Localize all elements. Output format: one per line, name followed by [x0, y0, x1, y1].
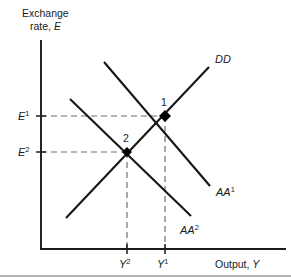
x-tick-label-y1-sup: 1 [164, 257, 168, 266]
x-axis-title-var: Y [252, 258, 260, 270]
axis-lines [41, 41, 285, 249]
y-axis-title-line1: Exchange [22, 7, 69, 19]
curve-label-aa1: AA1 [215, 185, 235, 198]
y-axis-title-line2: rate, E [30, 20, 62, 32]
curve-aa1 [104, 62, 210, 186]
marker-point-1 [159, 110, 171, 122]
economics-diagram-figure: Exchange rate, E Output, Y E1 E2 Y2 Y1 D… [0, 0, 291, 278]
curve-label-aa2-var: AA [179, 224, 195, 236]
curve-label-aa2-sup: 2 [195, 223, 199, 232]
x-tick-label-y2-sup: 2 [126, 257, 130, 266]
y-tick-label-e2-sup: 2 [25, 145, 29, 154]
curve-dd [66, 67, 209, 218]
y-axis-title-var: E [54, 20, 62, 32]
x-axis-title-prefix: Output, [215, 258, 252, 270]
y-tick-label-e1: E1 [18, 109, 30, 122]
point-label-2: 2 [123, 132, 129, 144]
curve-aa2 [70, 99, 191, 216]
dd-aa-diagram-svg: Exchange rate, E Output, Y E1 E2 Y2 Y1 D… [0, 0, 291, 278]
point-label-1: 1 [161, 96, 167, 108]
y-axis-title-prefix: rate, [30, 20, 54, 32]
x-tick-label-y2: Y2 [119, 257, 131, 270]
y-tick-label-e1-sup: 1 [25, 109, 29, 118]
y-tick-label-e2: E2 [18, 145, 30, 158]
x-axis-title: Output, Y [215, 258, 260, 270]
curve-label-aa2: AA2 [179, 223, 199, 236]
curve-label-aa1-var: AA [215, 186, 231, 198]
x-tick-label-y1: Y1 [157, 257, 169, 270]
curve-label-dd: DD [215, 53, 231, 65]
curve-label-aa1-sup: 1 [231, 185, 235, 194]
curve-label-dd-var: DD [215, 53, 231, 65]
